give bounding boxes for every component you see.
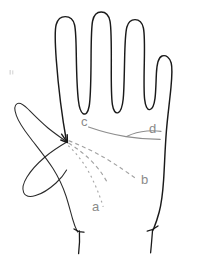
paper-speck-2 [12, 70, 13, 74]
palm-crease-a [68, 146, 103, 207]
hand-diagram-figure: a b c d [0, 0, 201, 263]
crease-label-a: a [92, 200, 99, 213]
crease-label-c: c [81, 115, 88, 128]
wrist-crease-right [147, 226, 158, 253]
crease-label-d: d [149, 122, 156, 135]
palm-crease-b [69, 141, 137, 179]
crease-label-b: b [141, 173, 148, 186]
hand-drawing [0, 0, 201, 263]
paper-speck [9, 70, 11, 75]
wrist-crease-left [74, 229, 84, 254]
hand-outline-thumb-left-side [15, 103, 78, 232]
thumb-inner-contour [23, 142, 67, 196]
palm-crease-b-secondary [68, 143, 108, 184]
